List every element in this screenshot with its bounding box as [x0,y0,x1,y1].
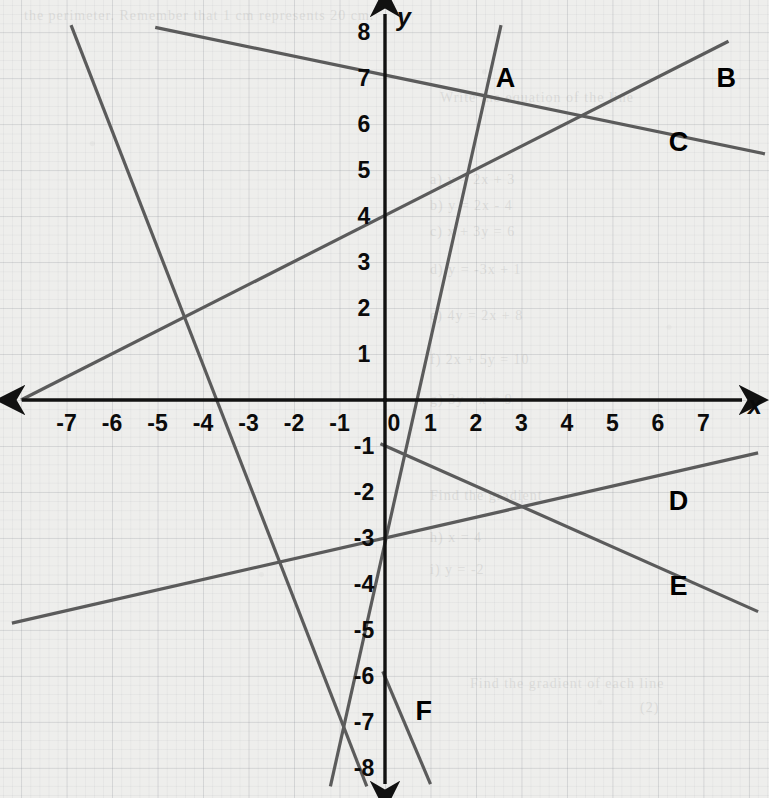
line-label-d: D [669,488,689,515]
y-tick-label: -7 [354,711,374,734]
line-label-b: B [717,65,737,92]
y-tick-label: -1 [354,435,374,458]
x-tick-label: 0 [388,412,401,435]
y-tick-label: -6 [354,665,374,688]
y-tick-label: 4 [358,205,371,228]
x-tick-label: -5 [147,412,167,435]
x-tick-label: -6 [102,412,122,435]
y-tick-label: 1 [358,343,371,366]
x-axis-name: x [748,393,762,418]
y-tick-label: -8 [354,757,374,780]
y-tick-label: 3 [358,251,371,274]
x-tick-label: -4 [193,412,213,435]
y-axis-name: y [397,5,411,30]
graph-line-b [21,41,729,400]
x-tick-label: 2 [470,412,483,435]
graph-canvas [0,0,769,798]
y-tick-label: 5 [358,159,371,182]
x-tick-label: -1 [329,412,349,435]
line-label-c: C [669,129,689,156]
line-label-f: F [415,697,432,724]
y-tick-label: 8 [358,21,371,44]
line-label-e: E [669,573,687,600]
line-label-a: A [496,65,516,92]
y-tick-label: -4 [354,573,374,596]
y-tick-label: 6 [358,113,371,136]
y-tick-label: -2 [354,481,374,504]
x-tick-label: 6 [652,412,665,435]
coordinate-graph-page: the perimeter. Remember that 1 cm repres… [0,0,769,798]
y-tick-label: 7 [358,67,371,90]
x-tick-label: 5 [606,412,619,435]
x-tick-label: -3 [238,412,258,435]
y-tick-label: -3 [354,527,374,550]
x-tick-label: -7 [56,412,76,435]
x-tick-label: 3 [515,412,528,435]
x-tick-label: -2 [284,412,304,435]
y-tick-label: -5 [354,619,374,642]
x-tick-label: 4 [561,412,574,435]
x-tick-label: 1 [424,412,437,435]
y-tick-label: 2 [358,297,371,320]
graph-line-g [383,671,431,784]
graph-line-f [71,25,367,786]
x-tick-label: 7 [697,412,710,435]
axes-group [22,14,742,784]
plotted-lines-group [12,25,765,786]
